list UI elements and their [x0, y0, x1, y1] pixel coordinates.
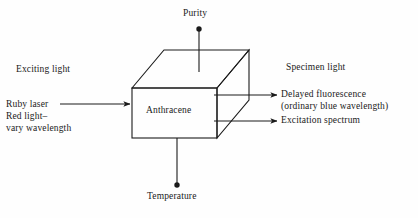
exciting-light-label: Exciting light [16, 64, 70, 76]
excitation-spectrum-label: Excitation spectrum [281, 115, 360, 127]
temperature-endpoint-dot [174, 182, 179, 187]
box-top-face [132, 50, 249, 88]
box-right-face [217, 50, 249, 138]
purity-endpoint-dot [196, 26, 201, 31]
diagram-canvas: Purity Exciting light Specimen light Ant… [0, 0, 418, 218]
temperature-label: Temperature [147, 191, 197, 203]
specimen-light-label: Specimen light [286, 62, 345, 74]
anthracene-box-label: Anthracene [146, 105, 191, 117]
red-light-vary-wavelength-label: Red light– vary wavelength [6, 111, 71, 134]
ruby-laser-label: Ruby laser [6, 99, 48, 111]
purity-label: Purity [183, 8, 207, 20]
delayed-fluorescence-label: Delayed fluorescence (ordinary blue wave… [281, 89, 388, 112]
